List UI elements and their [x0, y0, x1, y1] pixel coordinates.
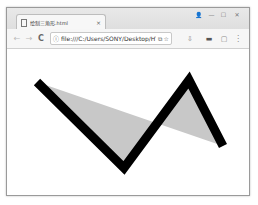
tab-title: 绘制三角形.html — [30, 19, 93, 26]
browser-tab[interactable]: 绘制三角形.html × — [16, 14, 106, 30]
maximize-button[interactable]: ☐ — [218, 10, 229, 19]
forward-button[interactable]: → — [24, 33, 34, 44]
reload-button[interactable]: C — [36, 33, 46, 44]
extension-square-icon[interactable]: ▢ — [219, 33, 229, 44]
menu-icon[interactable]: ⋮ — [233, 33, 243, 44]
back-button[interactable]: ← — [12, 33, 22, 44]
url-text[interactable]: file:///C:/Users/SONY/Desktop/HTi — [61, 35, 156, 42]
document-icon — [21, 19, 27, 27]
title-bar: 绘制三角形.html × 👤 — ☐ ✕ — [7, 8, 249, 29]
close-window-button[interactable]: ✕ — [231, 10, 243, 19]
info-icon[interactable]: ⓘ — [53, 34, 59, 43]
browser-toolbar: ← → C ⓘ file:///C:/Users/SONY/Desktop/HT… — [7, 29, 249, 49]
polyline-shape — [37, 80, 223, 168]
tab-close-icon[interactable]: × — [96, 19, 101, 26]
user-profile-icon[interactable]: 👤 — [193, 10, 203, 19]
extension-icon[interactable]: ▬ — [204, 33, 214, 44]
page-content — [7, 49, 249, 195]
address-bar[interactable]: ⓘ file:///C:/Users/SONY/Desktop/HTi ⧉ ☆ — [50, 32, 172, 45]
drawing-canvas — [7, 49, 249, 196]
browser-window: 绘制三角形.html × 👤 — ☐ ✕ ← → C ⓘ file:///C:/… — [6, 7, 250, 196]
minimize-button[interactable]: — — [206, 10, 217, 19]
translate-icon[interactable]: ⧉ — [158, 35, 162, 43]
extension-download-icon[interactable]: ⇩ — [185, 33, 195, 44]
bookmark-star-icon[interactable]: ☆ — [164, 35, 169, 42]
